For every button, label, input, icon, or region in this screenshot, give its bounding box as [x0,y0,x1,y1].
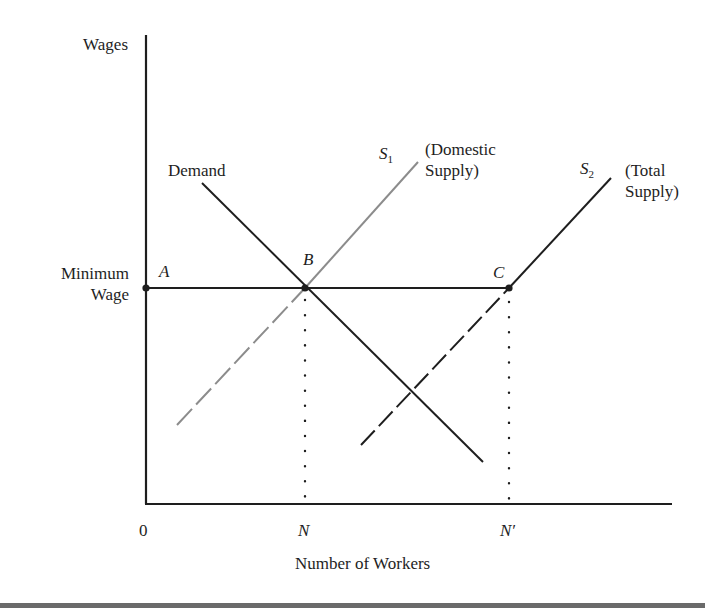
point-a-marker [142,284,149,291]
point-c-label: C [493,264,504,282]
x-tick-n-prime: N′ [500,522,515,540]
demand-curve [202,183,483,462]
s2-dashed-segment [361,288,509,445]
s2-description-line1: (Total [625,162,665,180]
s1-description-line1: (Domestic [425,141,496,159]
s2-solid-segment [509,178,611,288]
s2-label: S2 [580,160,594,179]
s1-dashed-segment [177,288,305,425]
s1-solid-segment [305,162,418,288]
s1-description-line2: Supply) [425,162,479,180]
point-b-marker [301,284,308,291]
point-a-label: A [159,263,169,281]
point-c-marker [505,284,512,291]
bottom-border-bar [0,603,705,608]
point-b-label: B [303,251,313,269]
origin-label: 0 [139,522,148,540]
demand-label: Demand [168,162,226,180]
minimum-wage-label-line2: Wage [91,286,129,304]
x-tick-n: N [298,522,309,540]
minimum-wage-label-line1: Minimum [61,265,129,283]
s1-subscript: 1 [388,153,394,165]
s1-label: S1 [379,145,393,164]
x-axis-label: Number of Workers [295,555,430,573]
s2-symbol: S [580,159,589,178]
s2-subscript: 2 [589,168,595,180]
y-axis-label: Wages [83,36,128,54]
s1-symbol: S [379,144,388,163]
s2-description-line2: Supply) [625,183,679,201]
labor-market-diagram [0,0,711,608]
